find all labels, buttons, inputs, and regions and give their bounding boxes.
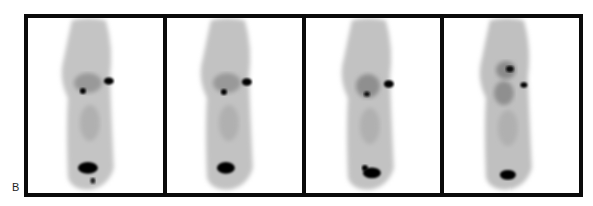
scintigraphy-strip — [24, 14, 583, 197]
scan-panel-1 — [28, 18, 167, 193]
body-scan-image — [306, 18, 441, 193]
body-scan-image — [28, 18, 163, 193]
body-scan-image — [444, 18, 579, 193]
figure-panel-label: B — [12, 181, 19, 193]
scan-panel-4 — [444, 18, 579, 193]
scan-panel-2 — [167, 18, 306, 193]
body-scan-image — [167, 18, 302, 193]
scan-panel-3 — [306, 18, 445, 193]
